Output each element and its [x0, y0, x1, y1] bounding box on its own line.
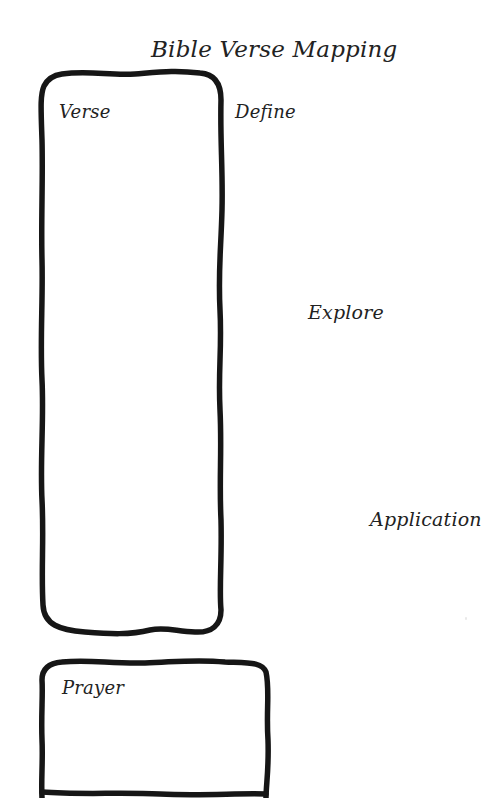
paper-speck	[465, 617, 467, 620]
prayer-label: Prayer	[62, 677, 124, 698]
prayer-writing-area[interactable]	[50, 705, 260, 787]
